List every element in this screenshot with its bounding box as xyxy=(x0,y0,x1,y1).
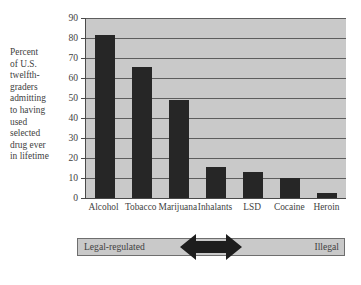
x-axis-label: Marijuana xyxy=(159,201,198,213)
y-axis-tick xyxy=(81,198,86,199)
bar xyxy=(243,172,263,198)
y-axis-tick xyxy=(81,18,86,19)
y-axis-tick-label: 60 xyxy=(68,73,78,83)
legality-band: Legal-regulated Illegal xyxy=(77,238,345,256)
y-axis-tick-label: 0 xyxy=(73,193,78,203)
y-axis-tick xyxy=(81,78,86,79)
double-headed-arrow-icon xyxy=(180,232,242,262)
y-axis-tick-label: 80 xyxy=(68,33,78,43)
y-axis-tick-label: 70 xyxy=(68,53,78,63)
y-axis-tick-label: 90 xyxy=(68,13,78,23)
y-axis-tick-label: 10 xyxy=(68,173,78,183)
y-axis-tick xyxy=(81,118,86,119)
y-axis-tick-label: 20 xyxy=(68,153,78,163)
y-axis-tick xyxy=(81,138,86,139)
x-axis-label: Alcohol xyxy=(88,201,118,213)
legality-band-right-label: Illegal xyxy=(314,242,339,252)
y-axis-tick-label: 40 xyxy=(68,113,78,123)
y-axis-tick xyxy=(81,178,86,179)
y-axis-tick-label: 50 xyxy=(68,93,78,103)
x-axis-label: LSD xyxy=(243,201,261,213)
bar xyxy=(317,193,337,198)
x-axis-label: Inhalants xyxy=(198,201,232,213)
y-axis-tick-label: 30 xyxy=(68,133,78,143)
x-axis-label: Tobacco xyxy=(125,201,157,213)
y-axis-tick xyxy=(81,98,86,99)
plot-area: 0102030405060708090 xyxy=(85,18,346,199)
bar xyxy=(280,178,300,198)
bar xyxy=(132,67,152,198)
bar xyxy=(169,100,189,198)
y-axis-tick xyxy=(81,38,86,39)
y-axis-caption: Percent of U.S. twelfth- graders admitti… xyxy=(10,47,62,163)
legality-band-left-label: Legal-regulated xyxy=(84,242,145,252)
x-axis-label: Heroin xyxy=(313,201,339,213)
x-axis-label: Cocaine xyxy=(274,201,305,213)
bar xyxy=(206,167,226,198)
x-axis-category-labels: AlcoholTobaccoMarijuanaInhalantsLSDCocai… xyxy=(85,201,345,215)
bar xyxy=(95,35,115,198)
y-axis-tick xyxy=(81,58,86,59)
drug-use-bar-chart-figure: Percent of U.S. twelfth- graders admitti… xyxy=(0,0,361,285)
y-axis-tick xyxy=(81,158,86,159)
bar-series xyxy=(86,18,346,198)
